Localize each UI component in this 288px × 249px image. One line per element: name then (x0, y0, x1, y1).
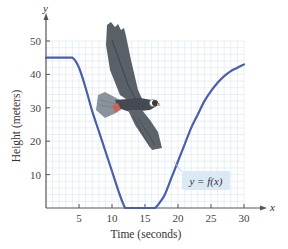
y-axis-variable: y (42, 2, 48, 14)
y-axis-arrow-icon (44, 13, 49, 20)
x-tick-10: 10 (107, 212, 119, 224)
x-tick-20: 20 (173, 212, 185, 224)
x-tick-25: 25 (206, 212, 218, 224)
y-tick-30: 30 (30, 102, 42, 114)
x-axis-arrow-icon (260, 206, 267, 211)
curve-label: y = f(x) (182, 171, 230, 190)
x-axis-title: Time (seconds) (111, 228, 182, 241)
y-tick-50: 50 (30, 35, 42, 47)
y-tick-40: 40 (30, 68, 42, 80)
y-tick-10: 10 (30, 169, 42, 181)
y-tick-20: 20 (30, 135, 42, 147)
chart-canvas: 50 40 30 20 10 5 10 15 20 25 30 y x Time… (0, 0, 288, 249)
x-axis-variable: x (269, 201, 275, 213)
y-axis-title: Height (meters) (10, 90, 23, 163)
x-tick-15: 15 (140, 212, 152, 224)
x-tick-5: 5 (76, 212, 82, 224)
x-tick-30: 30 (239, 212, 251, 224)
